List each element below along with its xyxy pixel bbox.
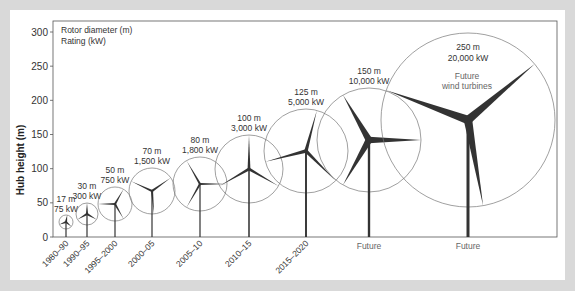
y-axis-ticks: 050100150200250300 xyxy=(31,27,53,243)
turbine-2: 50 m750 kW xyxy=(98,165,132,237)
turbine-4: 80 m1,800 kW xyxy=(173,135,227,237)
future-note-line1: Future xyxy=(455,71,480,81)
rotor-diameter-label: 150 m xyxy=(357,66,381,76)
turbines-layer: 17 m75 kW30 m300 kW50 m750 kW70 m1,500 k… xyxy=(54,33,555,237)
blade xyxy=(386,90,469,124)
rotor-diameter-label: 30 m xyxy=(78,181,97,191)
x-label-period: 2000–05 xyxy=(126,238,157,269)
blade xyxy=(248,168,278,186)
y-tick-label: 150 xyxy=(31,129,48,140)
blade xyxy=(248,135,251,169)
legend-rating: Rating (kW) xyxy=(61,36,106,46)
rotor-diameter-label: 250 m xyxy=(456,42,480,52)
turbine-6: 125 m5,000 kW xyxy=(264,87,348,237)
blade xyxy=(114,189,123,204)
blade xyxy=(265,149,306,162)
turbine-3: 70 m1,500 kW xyxy=(129,146,175,237)
rating-label: 5,000 kW xyxy=(288,97,324,107)
blade xyxy=(187,183,201,207)
rating-label: 20,000 kW xyxy=(448,53,489,63)
blade xyxy=(59,221,66,224)
blade xyxy=(98,203,115,205)
rating-label: 750 kW xyxy=(101,175,130,185)
blade xyxy=(343,95,372,142)
y-tick-label: 300 xyxy=(31,27,48,38)
rotor-diameter-label: 100 m xyxy=(237,113,261,123)
legend-rotor-diameter: Rotor diameter (m) xyxy=(61,25,132,35)
y-tick-label: 250 xyxy=(31,61,48,72)
figure-panel: Rotor diameter (m) Rating (kW) Hub heigh… xyxy=(10,10,565,280)
x-label-period: 2015–2020 xyxy=(273,238,310,275)
rating-label: 75 kW xyxy=(54,204,78,214)
x-label-period: 2005–10 xyxy=(174,238,205,269)
turbine-1: 30 m300 kW xyxy=(73,181,102,237)
rating-label: 1,800 kW xyxy=(182,145,218,155)
x-label-future: Future xyxy=(357,241,382,251)
y-axis-label: Hub height (m) xyxy=(15,125,26,196)
blade xyxy=(151,178,170,192)
blade xyxy=(369,137,421,144)
rating-label: 1,500 kW xyxy=(134,156,170,166)
blade xyxy=(86,213,96,219)
rating-label: 3,000 kW xyxy=(231,123,267,133)
rotor-diameter-label: 50 m xyxy=(106,165,125,175)
rotor-diameter-label: 70 m xyxy=(143,146,162,156)
turbine-7: 150 m10,000 kW xyxy=(317,66,421,237)
blade xyxy=(77,213,87,219)
blade xyxy=(86,203,88,214)
y-tick-label: 50 xyxy=(37,197,49,208)
x-axis-labels: 1980–901990–951995–20002000–052005–10201… xyxy=(40,238,481,275)
turbine-growth-chart: Rotor diameter (m) Rating (kW) Hub heigh… xyxy=(10,10,565,280)
blade xyxy=(187,161,201,185)
y-tick-label: 0 xyxy=(42,232,48,243)
y-tick-label: 100 xyxy=(31,163,48,174)
x-label-future: Future xyxy=(456,241,481,251)
future-note-line2: wind turbines xyxy=(441,81,492,91)
rating-label: 300 kW xyxy=(73,191,102,201)
rotor-diameter-label: 80 m xyxy=(191,135,210,145)
rating-label: 10,000 kW xyxy=(349,76,390,86)
blade xyxy=(220,168,250,186)
blade xyxy=(65,215,67,222)
y-tick-label: 200 xyxy=(31,95,48,106)
turbine-8: 250 m20,000 kW xyxy=(381,33,555,237)
blade xyxy=(131,181,152,192)
blade xyxy=(304,110,317,151)
rotor-diameter-label: 125 m xyxy=(294,87,318,97)
x-label-period: 2010–15 xyxy=(223,238,254,269)
